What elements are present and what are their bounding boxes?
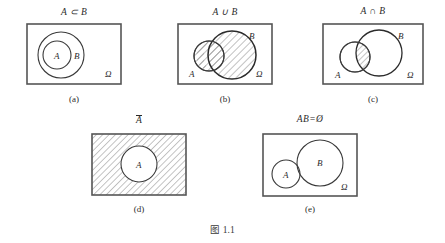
label-set-b-c: B (398, 31, 404, 41)
panel-e-title: AB=Ø (262, 114, 358, 124)
venn-panel-b: A ∪ B A B Ω (b) (177, 6, 273, 110)
panel-b-caption: (b) (177, 94, 273, 104)
label-set-a-d: A (135, 160, 142, 170)
panel-e-graphic: A B Ω (262, 133, 358, 201)
venn-panel-e: AB=Ø A B Ω (e) (262, 114, 358, 220)
venn-panel-a: A ⊂ B A B Ω (a) (26, 6, 122, 110)
label-set-a-c: A (334, 70, 341, 80)
panel-a-caption: (a) (26, 94, 122, 104)
label-set-b-b: B (249, 31, 255, 41)
panel-d-graphic: A (91, 133, 187, 201)
panel-a-graphic: A B Ω (26, 23, 122, 89)
panel-d-title-text: A (136, 115, 142, 126)
venn-panel-d: A A (d) (91, 115, 187, 220)
panel-d-title: A (91, 115, 187, 126)
label-set-a: A (53, 51, 60, 61)
label-set-b: B (74, 51, 80, 61)
figure-1-1: A ⊂ B A B Ω (a) A ∪ B A B Ω (0, 0, 445, 243)
label-universe-c: Ω (407, 70, 414, 80)
panel-d-caption: (d) (91, 204, 187, 214)
panel-c-graphic: A B Ω (322, 23, 424, 89)
label-set-a-e: A (282, 170, 289, 180)
venn-panel-c: A ∩ B A B Ω (c) (322, 6, 424, 110)
label-universe-b: Ω (256, 69, 263, 79)
panel-b-title: A ∪ B (177, 6, 273, 17)
panel-b-graphic: A B Ω (177, 23, 273, 89)
panel-c-caption: (c) (322, 94, 424, 104)
panel-e-caption: (e) (262, 204, 358, 214)
label-universe-e: Ω (341, 182, 348, 192)
label-set-a-b: A (188, 69, 195, 79)
label-universe-a: Ω (105, 69, 112, 79)
label-set-b-e: B (317, 158, 323, 168)
panel-c-title: A ∩ B (322, 6, 424, 16)
figure-caption: 图 1.1 (0, 222, 445, 236)
panel-a-title: A ⊂ B (26, 6, 122, 17)
